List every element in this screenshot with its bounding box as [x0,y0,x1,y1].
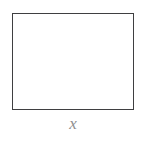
width-dimension-label: x [0,114,142,133]
rectangle-figure: x [0,0,142,147]
rectangle-shape [12,13,134,110]
